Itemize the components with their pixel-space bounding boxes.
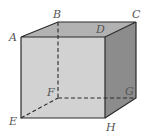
right-face	[105, 22, 136, 118]
vertex-label-a: A	[8, 31, 17, 44]
vertex-label-d: D	[95, 23, 105, 36]
vertex-label-b: B	[52, 8, 61, 21]
cube-diagram: A B C D E F G H	[0, 0, 148, 140]
vertex-label-c: C	[132, 8, 141, 21]
vertex-label-e: E	[8, 115, 17, 128]
front-face	[21, 37, 105, 118]
vertex-label-h: H	[105, 121, 116, 134]
vertex-label-g: G	[125, 85, 134, 98]
vertex-label-f: F	[46, 86, 55, 99]
